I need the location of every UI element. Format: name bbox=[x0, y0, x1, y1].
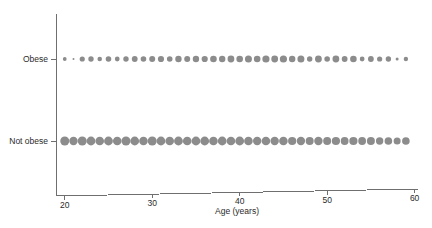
data-marker bbox=[227, 137, 236, 146]
data-marker bbox=[80, 56, 85, 61]
x-tick-label-40: 40 bbox=[235, 196, 245, 206]
data-marker bbox=[193, 56, 199, 62]
data-marker bbox=[289, 56, 295, 62]
data-marker bbox=[404, 57, 408, 61]
data-marker bbox=[396, 58, 399, 61]
data-marker bbox=[402, 137, 410, 145]
x-axis-title: Age (years) bbox=[215, 206, 259, 216]
x-tick-label-60: 60 bbox=[410, 193, 420, 203]
data-marker bbox=[349, 137, 357, 145]
data-marker bbox=[358, 137, 366, 145]
dot-plot-figure: ObeseNot obese 2030405060 Age (years) bbox=[0, 0, 432, 228]
data-marker bbox=[333, 56, 340, 63]
data-marker bbox=[183, 137, 192, 146]
data-marker bbox=[132, 56, 138, 62]
data-marker bbox=[244, 137, 253, 146]
data-marker bbox=[219, 56, 225, 62]
data-marker bbox=[97, 57, 102, 62]
data-marker bbox=[386, 56, 391, 61]
data-marker bbox=[130, 137, 139, 146]
data-marker bbox=[149, 56, 155, 62]
chart-canvas: ObeseNot obese 2030405060 Age (years) bbox=[0, 0, 432, 228]
data-marker bbox=[235, 137, 244, 146]
data-marker bbox=[377, 56, 382, 61]
data-marker bbox=[350, 56, 357, 63]
data-marker bbox=[228, 56, 235, 63]
data-marker bbox=[280, 55, 287, 62]
data-marker bbox=[104, 137, 113, 146]
data-marker bbox=[279, 137, 288, 146]
data-marker bbox=[297, 56, 304, 63]
data-marker bbox=[113, 137, 122, 146]
data-marker bbox=[270, 137, 278, 145]
data-marker bbox=[306, 137, 314, 145]
y-axis-ticks bbox=[51, 59, 56, 141]
data-marker bbox=[342, 56, 348, 62]
data-marker bbox=[360, 57, 365, 62]
x-tick-label-30: 30 bbox=[147, 198, 157, 208]
data-marker bbox=[174, 137, 183, 146]
x-axis-line bbox=[56, 189, 419, 196]
data-marker bbox=[385, 137, 393, 145]
data-marker bbox=[341, 137, 349, 145]
data-marker bbox=[115, 57, 120, 62]
data-marker bbox=[254, 56, 261, 63]
data-marker bbox=[332, 137, 340, 145]
data-marker bbox=[78, 137, 87, 146]
data-marker bbox=[87, 137, 96, 146]
data-marker bbox=[148, 137, 157, 146]
data-marker bbox=[88, 56, 93, 61]
data-marker bbox=[367, 137, 375, 145]
data-marker bbox=[69, 137, 77, 145]
y-axis-labels: ObeseNot obese bbox=[9, 54, 48, 146]
data-marker bbox=[245, 56, 252, 63]
data-marker bbox=[121, 137, 130, 146]
data-marker bbox=[253, 137, 261, 145]
axes-group bbox=[56, 14, 419, 196]
data-marker bbox=[95, 137, 104, 146]
data-marker bbox=[158, 56, 164, 62]
data-marker bbox=[376, 137, 383, 144]
y-axis-label-obese: Obese bbox=[23, 54, 48, 64]
data-markers-group bbox=[60, 55, 409, 145]
data-marker bbox=[323, 137, 331, 145]
data-marker bbox=[368, 56, 374, 62]
data-marker bbox=[192, 137, 201, 146]
data-marker bbox=[324, 56, 330, 62]
data-marker bbox=[106, 56, 112, 62]
data-marker bbox=[236, 56, 243, 63]
data-marker bbox=[271, 56, 278, 63]
data-marker bbox=[262, 55, 269, 62]
data-marker bbox=[175, 56, 181, 62]
data-marker bbox=[315, 56, 322, 63]
data-marker bbox=[210, 56, 217, 63]
x-tick-label-20: 20 bbox=[60, 200, 70, 210]
data-marker bbox=[202, 56, 208, 62]
data-marker bbox=[262, 137, 271, 146]
data-marker bbox=[314, 137, 322, 145]
data-marker bbox=[167, 56, 173, 62]
data-marker bbox=[72, 58, 74, 60]
data-marker bbox=[218, 137, 227, 146]
data-marker bbox=[200, 137, 209, 146]
x-tick-label-50: 50 bbox=[322, 195, 332, 205]
data-marker bbox=[209, 137, 218, 146]
data-marker bbox=[184, 56, 190, 62]
data-marker bbox=[139, 137, 148, 146]
data-marker bbox=[307, 56, 312, 61]
data-marker bbox=[297, 137, 305, 145]
data-marker bbox=[141, 56, 147, 62]
data-marker bbox=[63, 57, 67, 61]
data-marker bbox=[165, 137, 174, 146]
data-marker bbox=[288, 137, 296, 145]
data-marker bbox=[157, 137, 166, 146]
data-marker bbox=[394, 138, 401, 145]
data-marker bbox=[60, 137, 69, 146]
data-marker bbox=[123, 56, 128, 61]
y-axis-label-not-obese: Not obese bbox=[9, 136, 48, 146]
